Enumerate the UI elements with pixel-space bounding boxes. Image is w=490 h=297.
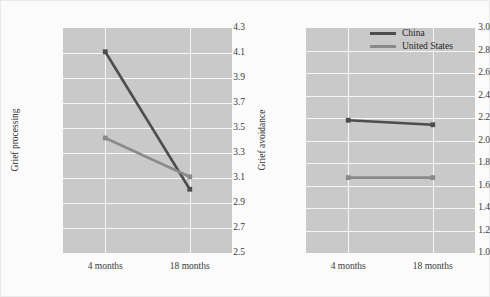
legend-label: China xyxy=(402,29,425,39)
x-tick-label: 4 months xyxy=(308,261,388,271)
plot-area-right xyxy=(306,28,475,253)
series-layer-left xyxy=(63,28,232,253)
x-tick-label: 4 months xyxy=(65,261,145,271)
x-tick-label: 18 months xyxy=(150,261,230,271)
legend-item: United States xyxy=(370,42,453,52)
data-point-marker xyxy=(430,175,435,180)
panel-grief-processing: Grief processing 2.52.72.93.13.33.53.73.… xyxy=(0,0,245,297)
y-axis-title-left: Grief processing xyxy=(10,85,20,195)
legend-item: China xyxy=(370,29,453,39)
x-tick-label: 18 months xyxy=(393,261,473,271)
data-point-marker xyxy=(346,118,351,123)
series-line-united-states xyxy=(105,138,190,177)
y-axis-title-right: Grief avoidance xyxy=(257,85,267,195)
data-point-marker xyxy=(103,49,108,54)
plot-area-left xyxy=(63,28,232,253)
data-point-marker xyxy=(187,187,192,192)
panel-grief-avoidance: Grief avoidance 1.01.21.41.61.82.02.22.4… xyxy=(245,0,490,297)
legend-label: United States xyxy=(402,42,453,52)
legend-swatch-line-icon xyxy=(370,45,396,48)
data-point-marker xyxy=(103,136,108,141)
data-point-marker xyxy=(430,122,435,127)
series-layer-right xyxy=(306,28,475,253)
data-point-marker xyxy=(346,175,351,180)
figure-root: Grief processing 2.52.72.93.13.33.53.73.… xyxy=(0,0,490,297)
series-line-china xyxy=(348,120,433,125)
data-point-marker xyxy=(187,174,192,179)
series-line-china xyxy=(105,52,190,190)
legend-swatch-line-icon xyxy=(370,32,396,35)
legend: ChinaUnited States xyxy=(370,29,453,54)
